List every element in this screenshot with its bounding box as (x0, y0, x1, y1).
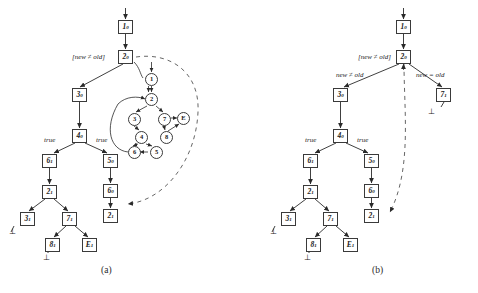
panel-b-node-5-0-superscript: 0 (372, 159, 375, 164)
panel-b-node-E-1-superscript: 1 (352, 243, 355, 248)
panel-a-node-8-1: 81 (45, 238, 60, 252)
panel-b-true-right-label: true (357, 137, 368, 144)
panel-a-node-5-0: 50 (103, 154, 118, 168)
panel-b-bottom-left: ⊥ (270, 228, 277, 236)
panel-a-circle-3: 3 (128, 113, 141, 126)
panel-a-true-right-label: true (96, 137, 107, 144)
panel-b-node-2-1b-superscript: 1 (372, 214, 375, 219)
panel-a-node-3-1: 31 (20, 212, 35, 226)
panel-b-node-1-0-superscript: 0 (404, 25, 407, 30)
panel-a-node-2-1-superscript: 1 (50, 190, 53, 195)
panel-b-node-6-1: 61 (303, 154, 318, 168)
panel-a-node-E-1: E1 (82, 238, 97, 252)
panel-b-bottom-center: ⊥ (304, 254, 311, 262)
panel-b-node-7-1-superscript: 1 (331, 217, 334, 222)
panel-a-node-6-1: 61 (42, 154, 57, 168)
panel-a-node-1-0-superscript: 0 (126, 25, 129, 30)
panel-b-node-3-0-superscript: 0 (341, 93, 344, 98)
caption-b: (b) (372, 266, 383, 276)
panel-b-node-2-0: 20 (396, 50, 411, 64)
panel-b-node-4-0: 40 (333, 129, 348, 143)
panel-b-bottom-right-top: ⊥ (428, 108, 435, 116)
panel-b-node-5-0: 50 (364, 154, 379, 168)
panel-a-node-6-1-superscript: 1 (50, 159, 53, 164)
panel-b-node-8-1: 81 (306, 238, 321, 252)
panel-b-node-1-0: 10 (396, 20, 411, 34)
panel-b-guard-label: [new ≠ old] (358, 54, 391, 61)
panel-a-circle-2: 2 (145, 93, 158, 106)
panel-a-guard-label: [new ≠ old] (72, 54, 105, 61)
panel-a-node-6-0: 60 (103, 184, 118, 198)
panel-a-circle-1: 1 (145, 73, 158, 86)
panel-b-node-3-1-superscript: 1 (289, 217, 292, 222)
panel-b-node-6-0: 60 (364, 184, 379, 198)
panel-a-node-2-0: 20 (118, 50, 133, 64)
caption-a: (a) (101, 266, 112, 276)
panel-a-node-5-0-superscript: 0 (111, 159, 114, 164)
panel-a-circle-6: 6 (128, 146, 141, 159)
panel-b-node-3-0: 30 (333, 88, 348, 102)
panel-b-node-2-1-superscript: 1 (311, 190, 314, 195)
panel-a-circle-E: E (177, 112, 190, 125)
panel-a-circle-8: 8 (160, 131, 173, 144)
panel-a-circle-4: 4 (135, 131, 148, 144)
panel-a-node-3-0: 30 (72, 88, 87, 102)
panel-a-node-8-1-superscript: 1 (53, 243, 56, 248)
panel-a-node-2-0-superscript: 0 (126, 55, 129, 60)
panel-b-dashed-loop (390, 64, 405, 212)
panel-a-node-3-1-superscript: 1 (28, 217, 31, 222)
panel-a-node-7-1-superscript: 1 (70, 217, 73, 222)
panel-b-node-2-1b: 21 (364, 209, 379, 223)
panel-b-node-4-0-superscript: 0 (341, 134, 344, 139)
panel-b-true-left-label: true (305, 137, 316, 144)
panel-b-node-7-1t: 71 (436, 88, 451, 102)
panel-a-circle-5: 5 (150, 146, 163, 159)
panel-a-node-2-1: 21 (42, 185, 57, 199)
panel-a-node-2-1b: 21 (103, 209, 118, 223)
panel-b-branch-new-neq-old-label: new ≠ old (336, 72, 364, 79)
panel-b-node-E-1: E1 (343, 238, 358, 252)
panel-b-node-7-1: 71 (323, 212, 338, 226)
panel-a-node-2-1b-superscript: 1 (111, 214, 114, 219)
panel-a-bottom-center: ⊥ (43, 254, 50, 262)
panel-b-node-8-1-superscript: 1 (314, 243, 317, 248)
panel-a-circle-7: 7 (158, 113, 171, 126)
panel-a-node-E-1-superscript: 1 (91, 243, 94, 248)
diagram-edges (0, 0, 478, 293)
panel-a-node-7-1: 71 (62, 212, 77, 226)
panel-b-node-3-1: 31 (281, 212, 296, 226)
panel-a-node-3-0-superscript: 0 (80, 93, 83, 98)
panel-b-edges (272, 8, 444, 252)
panel-b-node-2-0-superscript: 0 (404, 55, 407, 60)
panel-b-node-6-0-superscript: 0 (372, 189, 375, 194)
panel-a-node-4-0: 40 (72, 129, 87, 143)
panel-a-node-6-0-superscript: 0 (111, 189, 114, 194)
panel-b-branch-new-eq-old-label: new = old (416, 72, 444, 79)
panel-b-node-2-1: 21 (303, 185, 318, 199)
panel-a-node-1-0: 10 (118, 20, 133, 34)
panel-a-node-4-0-superscript: 0 (80, 134, 83, 139)
panel-a-bottom-left: ⊥ (9, 228, 16, 236)
figure-canvas: 102030406150216031712181E11237E4865truet… (0, 0, 478, 293)
panel-b-node-7-1t-superscript: 1 (444, 93, 447, 98)
panel-a-true-left-label: true (44, 137, 55, 144)
panel-b-node-6-1-superscript: 1 (311, 159, 314, 164)
